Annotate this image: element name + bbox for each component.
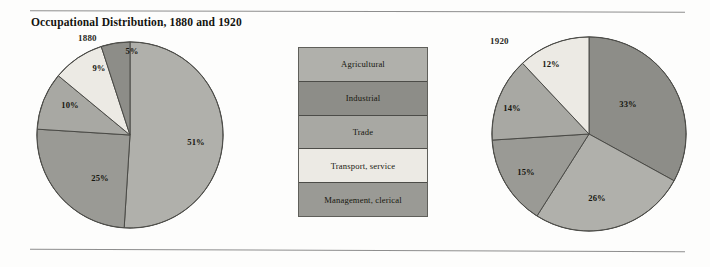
legend-label-transport-service: Transport, service xyxy=(331,161,395,171)
slice-label-1880-trade: 10% xyxy=(61,100,79,110)
slice-label-1880-agricultural: 51% xyxy=(187,137,205,147)
legend-item-trade: Trade xyxy=(299,116,427,150)
figure-occupational-distribution: Occupational Distribution, 1880 and 1920… xyxy=(0,0,710,267)
legend: Agricultural Industrial Trade Transport,… xyxy=(298,47,428,217)
slice-label-1920-industrial: 33% xyxy=(619,99,637,109)
top-divider-rule xyxy=(30,10,685,12)
pie-svg-1880 xyxy=(36,41,224,229)
bottom-divider-rule xyxy=(30,249,685,253)
legend-item-agricultural: Agricultural xyxy=(299,48,427,82)
pie-year-label-1920: 1920 xyxy=(490,36,509,46)
slice-label-1920-management: 15% xyxy=(517,167,535,177)
legend-label-trade: Trade xyxy=(353,127,373,137)
pie-year-label-1880: 1880 xyxy=(78,33,97,43)
legend-item-industrial: Industrial xyxy=(299,82,427,116)
page-title: Occupational Distribution, 1880 and 1920 xyxy=(31,16,242,28)
slice-label-1920-agricultural: 26% xyxy=(588,193,606,203)
slice-label-1920-trade: 14% xyxy=(503,103,521,113)
slice-label-1880-transport: 9% xyxy=(92,63,105,73)
pie-slice xyxy=(124,42,223,228)
slice-label-1880-industrial: 5% xyxy=(125,46,138,56)
legend-item-management-clerical: Management, clerical xyxy=(299,183,427,216)
pie-slice xyxy=(37,129,130,228)
slice-label-1920-transport: 12% xyxy=(542,59,560,69)
pie-canvas-1880 xyxy=(36,41,224,229)
legend-item-transport-service: Transport, service xyxy=(299,149,427,183)
legend-label-agricultural: Agricultural xyxy=(341,59,385,69)
legend-label-industrial: Industrial xyxy=(346,93,380,103)
slice-label-1880-management: 25% xyxy=(91,173,109,183)
legend-label-management-clerical: Management, clerical xyxy=(324,195,401,205)
